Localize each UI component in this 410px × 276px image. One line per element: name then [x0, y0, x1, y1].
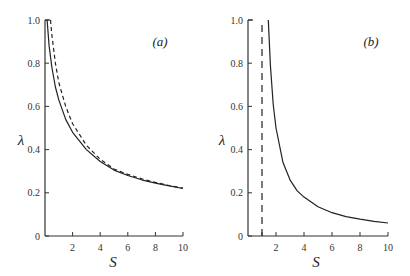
figure: 00.20.40.60.81.0246810Sλ(a) 00.20.40.60.… [0, 0, 410, 276]
y-axis-label: λ [17, 132, 25, 148]
y-tick-label: 0.8 [28, 58, 41, 69]
x-tick-label: 4 [98, 242, 103, 253]
y-axis-label: λ [218, 132, 226, 148]
y-tick-label: 0 [238, 231, 243, 242]
x-tick-label: 2 [70, 242, 75, 253]
x-axis-label: S [312, 254, 320, 270]
x-tick-label: 6 [330, 242, 335, 253]
y-tick-label: 0.6 [28, 101, 41, 112]
panel-label: (b) [363, 34, 378, 49]
series-solid [268, 20, 388, 223]
x-tick-label: 2 [274, 242, 279, 253]
y-tick-label: 0.4 [28, 144, 41, 155]
x-tick-label: 4 [302, 242, 307, 253]
y-tick-label: 0.2 [28, 187, 41, 198]
x-tick-label: 6 [125, 242, 130, 253]
y-tick-label: 1.0 [231, 15, 244, 26]
x-tick-label: 8 [358, 242, 363, 253]
y-tick-label: 0 [35, 231, 40, 242]
y-tick-label: 0.8 [231, 58, 244, 69]
panel-b: 00.20.40.60.81.0246810Sλ(b) [218, 15, 393, 271]
panel-a: 00.20.40.60.81.0246810Sλ(a) [17, 15, 188, 271]
y-tick-label: 1.0 [28, 15, 41, 26]
x-axis-label: S [109, 254, 117, 270]
y-tick-label: 0.4 [231, 144, 244, 155]
y-tick-label: 0.2 [231, 187, 244, 198]
x-tick-label: 10 [383, 242, 393, 253]
x-tick-label: 10 [178, 242, 188, 253]
x-tick-label: 8 [153, 242, 158, 253]
y-tick-label: 0.6 [231, 101, 244, 112]
panel-label: (a) [152, 34, 167, 49]
